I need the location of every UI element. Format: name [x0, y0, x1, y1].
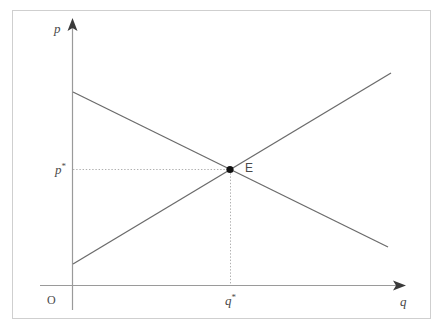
x-axis-label: q [400, 295, 407, 308]
equilibrium-quantity-label: q* [225, 293, 236, 307]
equilibrium-price-label: p* [55, 162, 66, 176]
y-axis-label: p [54, 22, 61, 35]
equilibrium-price-star: * [62, 161, 67, 171]
supply-demand-figure: p q O p* q* E [0, 0, 444, 334]
plot-canvas [0, 0, 444, 334]
equilibrium-point-label: E [245, 162, 253, 174]
equilibrium-quantity-star: * [232, 292, 237, 302]
equilibrium-point-marker [226, 166, 233, 173]
origin-label: O [47, 294, 56, 306]
